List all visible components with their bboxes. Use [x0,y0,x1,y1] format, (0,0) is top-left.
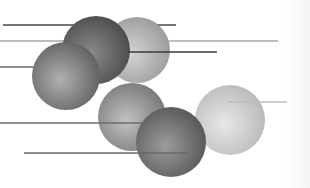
spheres-illustration [0,0,310,188]
sphere-left [32,42,100,110]
sphere-bottom-dark [136,107,206,177]
illustration-canvas [0,0,310,188]
